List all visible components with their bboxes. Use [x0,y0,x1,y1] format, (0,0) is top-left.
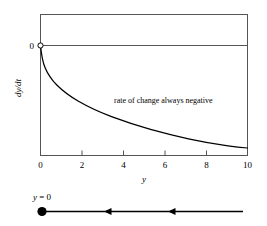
curve-annotation-label: rate of change always negative [114,96,213,105]
phase-line-label-rest: = 0 [37,192,52,202]
x-tick-label-4: 8 [204,160,209,170]
x-tick-label-2: 4 [121,160,126,170]
x-tick-label-3: 6 [163,160,168,170]
y-tick-label-zero: 0 [30,41,35,51]
phase-line-equilibrium-dot [37,207,46,216]
x-axis-title: y [141,174,146,184]
differential-equation-figure: 0 2 4 6 8 10 0 y dy/dt rate of change al… [0,0,267,226]
x-tick-label-0: 0 [38,160,43,170]
phase-line-arrowhead-left-2 [168,208,176,215]
x-tick-label-1: 2 [80,160,85,170]
x-tick-label-5: 10 [243,160,253,170]
phase-line-equilibrium-label: y = 0 [32,192,52,202]
open-circle-origin-marker [38,43,43,48]
x-axis-ticks [41,151,248,156]
figure-container: 0 2 4 6 8 10 0 y dy/dt rate of change al… [0,0,267,226]
phase-line-arrowhead-left-1 [104,208,112,215]
y-axis-title: dy/dt [13,79,23,97]
plot-frame [41,15,248,156]
